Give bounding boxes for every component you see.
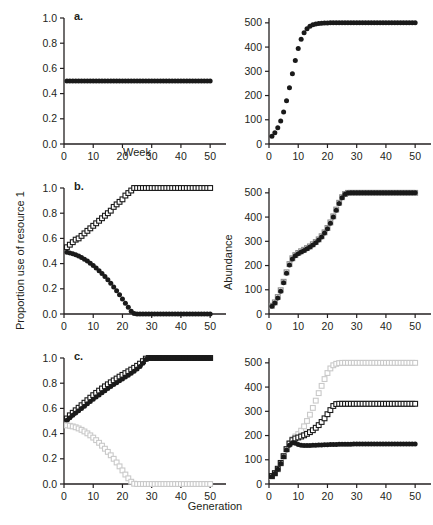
b-left-ytick: 0.8 (42, 207, 57, 219)
b-right-xtick: 10 (292, 320, 304, 332)
a-right-series-0 (269, 20, 417, 138)
panel-label-c: c. (74, 350, 83, 362)
panel-c-right-chart: 010020030040050001020304050 (237, 348, 433, 514)
panel-b-right-chart: 010020030040050001020304050 (237, 178, 433, 344)
b-left-svg: 0.00.20.40.60.81.001020304050b. (32, 178, 228, 344)
y-axis-label-abundance: Abundance (222, 234, 234, 290)
c-left-xtick: 10 (87, 490, 99, 502)
c-left-ytick: 0.0 (42, 478, 57, 490)
c-left-series-1 (64, 356, 212, 423)
panel-label-b: b. (74, 180, 84, 192)
a-left-ytick: 0.2 (42, 112, 57, 124)
c-right-series-1 (270, 401, 418, 478)
c-right-ytick: 400 (244, 381, 262, 393)
c-left-svg: 0.00.20.40.60.81.001020304050c. (32, 348, 228, 514)
a-right-xtick: 30 (351, 150, 363, 162)
c-right-series-0 (270, 360, 418, 479)
b-right-xtick: 50 (409, 320, 421, 332)
b-right-series-1 (269, 190, 417, 308)
a-left-ytick: 1.0 (42, 12, 57, 24)
b-right-ytick: 100 (244, 283, 262, 295)
c-right-svg: 010020030040050001020304050 (237, 348, 433, 514)
c-right-ytick: 0 (256, 478, 262, 490)
c-right-ytick: 300 (244, 405, 262, 417)
b-right-xtick: 40 (380, 320, 392, 332)
c-right-ytick: 500 (244, 356, 262, 368)
a-right-svg: 010020030040050001020304050 (237, 8, 433, 174)
b-left-xtick: 10 (87, 320, 99, 332)
c-right-xtick: 40 (380, 490, 392, 502)
b-left-series-0 (65, 186, 213, 250)
b-right-svg: 010020030040050001020304050 (237, 178, 433, 344)
b-left-xtick: 50 (204, 320, 216, 332)
b-right-xtick: 0 (266, 320, 272, 332)
x-axis-label-generation: Generation (115, 500, 315, 512)
b-left-series-1 (64, 250, 212, 317)
panel-b-left-chart: 0.00.20.40.60.81.001020304050b. (32, 178, 228, 344)
b-right-ytick: 300 (244, 235, 262, 247)
b-right-series-0 (270, 190, 418, 308)
a-right-xtick: 10 (292, 150, 304, 162)
c-right-xtick: 20 (322, 490, 334, 502)
a-right-xtick: 20 (322, 150, 334, 162)
c-right-xtick: 50 (409, 490, 421, 502)
b-left-xtick: 30 (146, 320, 158, 332)
c-left-ytick: 0.2 (42, 452, 57, 464)
b-right-ytick: 0 (256, 308, 262, 320)
c-right-ytick: 100 (244, 453, 262, 465)
b-left-xtick: 0 (61, 320, 67, 332)
a-right-ytick: 300 (244, 65, 262, 77)
x-axis-label-week: Week (62, 146, 212, 158)
c-left-ytick: 0.8 (42, 377, 57, 389)
b-left-ytick: 0.2 (42, 282, 57, 294)
b-right-xtick: 30 (351, 320, 363, 332)
panel-c-left-chart: 0.00.20.40.60.81.001020304050c. (32, 348, 228, 514)
a-right-ytick: 100 (244, 113, 262, 125)
c-left-ytick: 0.6 (42, 402, 57, 414)
c-right-xtick: 30 (351, 490, 363, 502)
b-left-ytick: 0.4 (42, 257, 57, 269)
a-right-xtick: 50 (409, 150, 421, 162)
a-left-ytick: 0.6 (42, 62, 57, 74)
a-left-ytick: 0.0 (42, 138, 57, 150)
c-left-series-2 (65, 423, 213, 486)
b-left-xtick: 40 (175, 320, 187, 332)
panel-label-a: a. (74, 10, 83, 22)
a-right-xtick: 0 (266, 150, 272, 162)
b-right-ytick: 500 (244, 186, 262, 198)
b-right-ytick: 400 (244, 211, 262, 223)
c-right-series-2 (269, 440, 417, 479)
b-right-ytick: 200 (244, 259, 262, 271)
y-axis-label-proportion: Proportion use of resource 1 (14, 191, 26, 330)
c-left-ytick: 1.0 (42, 352, 57, 364)
panel-a-right-chart: 010020030040050001020304050 (237, 8, 433, 174)
b-left-ytick: 0.0 (42, 308, 57, 320)
b-left-xtick: 20 (117, 320, 129, 332)
c-right-ytick: 200 (244, 429, 262, 441)
a-right-xtick: 40 (380, 150, 392, 162)
b-left-ytick: 1.0 (42, 182, 57, 194)
a-left-series-0 (64, 79, 212, 84)
b-right-xtick: 20 (322, 320, 334, 332)
c-left-ytick: 0.4 (42, 427, 57, 439)
a-right-ytick: 500 (244, 16, 262, 28)
c-left-xtick: 0 (61, 490, 67, 502)
a-right-ytick: 0 (256, 138, 262, 150)
a-left-ytick: 0.8 (42, 37, 57, 49)
b-left-ytick: 0.6 (42, 232, 57, 244)
a-right-ytick: 400 (244, 41, 262, 53)
a-right-ytick: 200 (244, 89, 262, 101)
a-left-ytick: 0.4 (42, 87, 57, 99)
